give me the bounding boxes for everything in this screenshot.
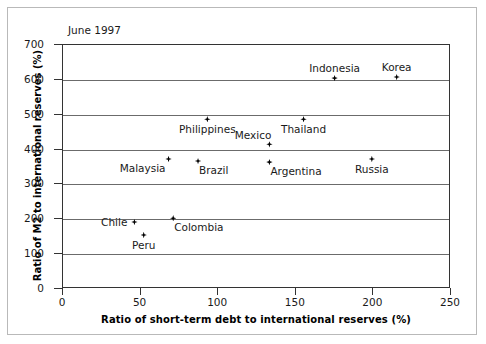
y-axis-tick xyxy=(54,149,62,150)
gridline xyxy=(63,150,449,151)
data-point-label: Indonesia xyxy=(309,63,360,74)
y-axis-tick-label: 400 xyxy=(10,144,44,155)
y-axis-tick xyxy=(54,183,62,184)
data-point-label: Philippines xyxy=(179,124,236,135)
y-axis-tick-label: 500 xyxy=(10,109,44,120)
x-axis-tick-label: 150 xyxy=(275,297,315,308)
x-axis-tick-label: 250 xyxy=(430,297,470,308)
x-axis-tick xyxy=(295,288,296,295)
data-point-marker-icon xyxy=(266,141,272,147)
x-axis-tick xyxy=(62,288,63,295)
data-point-label: Korea xyxy=(382,62,412,73)
data-point-label: Thailand xyxy=(281,124,326,135)
gridline xyxy=(63,80,449,81)
data-point-marker-icon xyxy=(204,116,210,122)
x-axis-title: Ratio of short-term debt to internationa… xyxy=(62,314,450,325)
gridline xyxy=(63,254,449,255)
x-axis-tick xyxy=(140,288,141,295)
x-axis-tick xyxy=(217,288,218,295)
data-point-label: Russia xyxy=(355,164,389,175)
chart-figure: June 1997 Ratio of M2 to international r… xyxy=(0,0,486,344)
y-axis-tick xyxy=(54,253,62,254)
data-point-label: Malaysia xyxy=(120,163,166,174)
y-axis-tick xyxy=(54,114,62,115)
y-axis-tick-label: 0 xyxy=(10,283,44,294)
x-axis-tick xyxy=(372,288,373,295)
data-point-label: Mexico xyxy=(235,130,272,141)
data-point-marker-icon xyxy=(165,156,171,162)
y-axis-tick-label: 300 xyxy=(10,178,44,189)
data-point-marker-icon xyxy=(141,232,147,238)
plot-area: IndonesiaKoreaPhilippinesThailandMexicoM… xyxy=(62,44,450,288)
data-point-label: Argentina xyxy=(270,166,321,177)
y-axis-tick xyxy=(54,44,62,45)
data-point-label: Peru xyxy=(132,240,155,251)
x-axis-tick-label: 50 xyxy=(120,297,160,308)
x-axis-tick-label: 200 xyxy=(352,297,392,308)
data-point-label: Colombia xyxy=(174,222,223,233)
data-point-marker-icon xyxy=(369,156,375,162)
x-axis-tick xyxy=(450,288,451,295)
data-point-label: Chile xyxy=(101,217,127,228)
y-axis-tick-label: 600 xyxy=(10,74,44,85)
y-axis-tick xyxy=(54,288,62,289)
y-axis-tick xyxy=(54,79,62,80)
y-axis-tick xyxy=(54,218,62,219)
data-point-marker-icon xyxy=(300,116,306,122)
gridline xyxy=(63,115,449,116)
x-axis-tick-label: 100 xyxy=(197,297,237,308)
data-point-label: Brazil xyxy=(199,165,228,176)
chart-title: June 1997 xyxy=(68,24,121,36)
y-axis-tick-label: 100 xyxy=(10,248,44,259)
x-axis-tick-label: 0 xyxy=(42,297,82,308)
y-axis-tick-label: 700 xyxy=(10,39,44,50)
gridline xyxy=(63,184,449,185)
y-axis-tick-label: 200 xyxy=(10,213,44,224)
